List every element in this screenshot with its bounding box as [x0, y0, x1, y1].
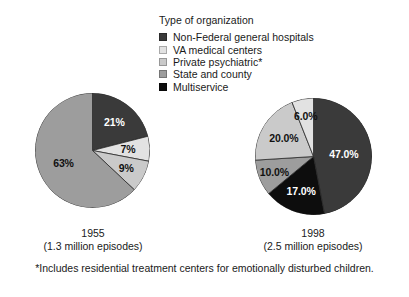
pie-slice-label: 17.0%: [287, 185, 316, 197]
legend-item-state-and-county: State and county: [159, 68, 399, 80]
pie-slice-label: 21%: [104, 116, 125, 128]
pie-slice-label: 9%: [119, 162, 134, 174]
legend-title: Type of organization: [159, 14, 399, 27]
pie-slice-label: 7%: [121, 143, 136, 155]
caption-episodes: (1.3 million episodes): [0, 240, 193, 253]
pie-chart-1955: 21%7%9%63%: [35, 93, 150, 208]
legend-item-label: VA medical centers: [173, 44, 262, 56]
legend-swatch-icon: [159, 83, 167, 91]
legend-swatch-icon: [159, 58, 167, 66]
legend-item-va-medical-centers: VA medical centers: [159, 43, 399, 55]
pie-slice-label: 47.0%: [329, 148, 358, 160]
legend-item-label: State and county: [173, 68, 252, 80]
legend: Type of organization Non-Federal general…: [159, 14, 399, 93]
legend-item-multiservice: Multiservice: [159, 81, 399, 93]
caption-year: 1998: [213, 227, 409, 240]
legend-item-label: Private psychiatric*: [173, 56, 262, 68]
legend-list: Non-Federal general hospitals VA medical…: [159, 31, 399, 93]
pie-chart-figure: Type of organization Non-Federal general…: [0, 0, 409, 297]
caption-episodes: (2.5 million episodes): [213, 240, 409, 253]
caption-1955: 1955 (1.3 million episodes): [0, 227, 193, 252]
pie-slice-label: 63%: [53, 157, 74, 169]
legend-swatch-icon: [159, 33, 167, 41]
pie-slice-label: 10.0%: [260, 166, 289, 178]
caption-1998: 1998 (2.5 million episodes): [213, 227, 409, 252]
pie-chart-1998: 47.0%17.0%10.0%20.0%6.0%: [255, 98, 372, 215]
pie-slice-label: 6.0%: [294, 110, 318, 122]
caption-year: 1955: [0, 227, 193, 240]
legend-item-private-psychiatric: Private psychiatric*: [159, 56, 399, 68]
legend-swatch-icon: [159, 70, 167, 78]
legend-item-label: Non-Federal general hospitals: [173, 31, 314, 43]
footnote: *Includes residential treatment centers …: [0, 262, 409, 275]
legend-item-label: Multiservice: [173, 81, 228, 93]
legend-item-non-federal-general-hospitals: Non-Federal general hospitals: [159, 31, 399, 43]
legend-swatch-icon: [159, 46, 167, 54]
pie-slice-label: 20.0%: [269, 132, 298, 144]
